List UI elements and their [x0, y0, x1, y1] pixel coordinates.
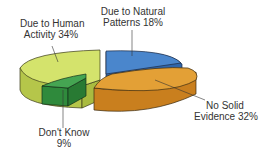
pie-chart: Due to Human Activity 34% Due to Natural… [0, 0, 259, 154]
label-evidence-line1: No Solid [194, 100, 256, 111]
label-human-line1: Due to Human [20, 18, 82, 29]
label-natural-line1: Due to Natural [100, 6, 166, 17]
label-natural-line2: Patterns 18% [100, 17, 166, 28]
label-dontknow-line2: 9% [36, 138, 92, 149]
label-no-solid-evidence: No Solid Evidence 32% [194, 100, 256, 122]
label-human-activity: Due to Human Activity 34% [20, 18, 82, 40]
label-dont-know: Don't Know 9% [36, 127, 92, 149]
label-evidence-line2: Evidence 32% [194, 111, 256, 122]
label-dontknow-line1: Don't Know [36, 127, 92, 138]
label-human-line2: Activity 34% [20, 29, 82, 40]
label-natural-patterns: Due to Natural Patterns 18% [100, 6, 166, 28]
